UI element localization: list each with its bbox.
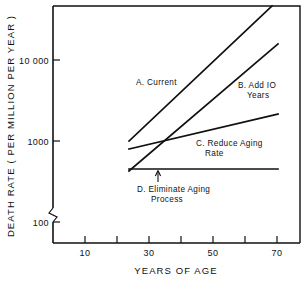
mortality-log-chart: 10 000 1000 100 10 30 50 70 YEARS OF AGE… [0, 0, 308, 283]
series-label-c-line1: C. Reduce Aging [196, 139, 263, 148]
series-label-c-line2: Rate [205, 149, 224, 158]
series-label-b-line2: Years [247, 91, 269, 100]
y-tick-label-10000: 10 000 [19, 56, 49, 66]
x-tick-label-50: 50 [208, 248, 219, 258]
x-tick-label-70: 70 [272, 248, 283, 258]
series-label-d-line1: D. Eliminate Aging [137, 185, 210, 194]
y-axis-title: DEATH RATE ( PER MILLION PER YEAR ) [5, 15, 16, 237]
series-label-a: A. Current [136, 78, 177, 87]
y-tick-label-100: 100 [33, 218, 49, 228]
series-label-d-line2: Process [151, 195, 183, 204]
y-tick-label-1000: 1000 [27, 137, 49, 147]
x-tick-label-30: 30 [144, 248, 155, 258]
x-axis-title: YEARS OF AGE [134, 265, 217, 276]
x-tick-label-10: 10 [80, 248, 91, 258]
series-label-b-line1: B. Add IO [238, 81, 276, 90]
chart-figure: 10 000 1000 100 10 30 50 70 YEARS OF AGE… [0, 0, 308, 283]
